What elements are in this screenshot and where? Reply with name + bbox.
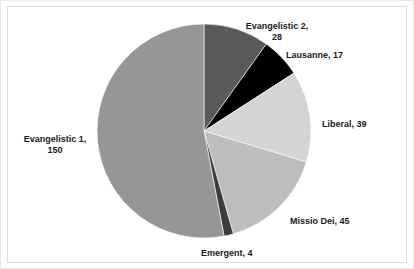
pie-label-lausanne: Lausanne, 17 (286, 50, 386, 61)
pie-label-missio-dei: Missio Dei, 45 (290, 216, 390, 227)
pie-chart-plot-area: Evangelistic 2, 28 Lausanne, 17 Liberal,… (1, 1, 414, 269)
pie-label-liberal: Liberal, 39 (322, 119, 402, 130)
pie-label-evangelistic-1: Evangelistic 1, 150 (13, 134, 97, 156)
chart-frame: Evangelistic 2, 28 Lausanne, 17 Liberal,… (0, 0, 414, 269)
pie-label-emergent: Emergent, 4 (201, 248, 291, 259)
pie-label-evangelistic-2: Evangelistic 2, 28 (235, 21, 319, 43)
pie-slice-group (97, 24, 311, 238)
